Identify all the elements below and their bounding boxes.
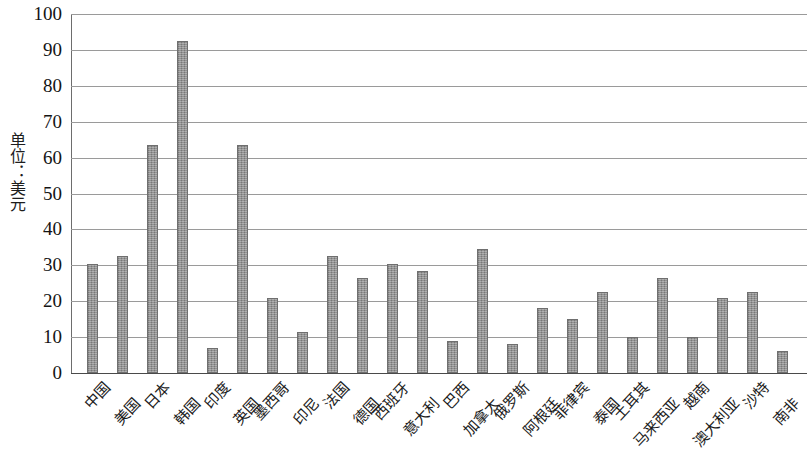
- x-axis-category-label: 中国: [81, 379, 113, 412]
- bar: [177, 41, 188, 373]
- x-axis-category-label: 越南: [681, 379, 713, 412]
- y-axis-tick-label: 40: [18, 219, 62, 238]
- y-axis-tick-label: 80: [18, 76, 62, 95]
- y-axis-tick-label: 60: [18, 148, 62, 167]
- x-axis-category-label: 韩国: [171, 395, 203, 428]
- x-axis-category-label: 南非: [771, 395, 803, 428]
- x-axis-category-label: 巴西: [441, 379, 473, 412]
- bar: [357, 278, 368, 373]
- bar: [117, 256, 128, 373]
- y-axis-tick-label: 30: [18, 255, 62, 274]
- x-axis-category-label: 法国: [321, 379, 353, 412]
- bar: [237, 145, 248, 373]
- y-axis-tick-label: 70: [18, 112, 62, 131]
- y-axis-tick-label: 20: [18, 291, 62, 310]
- plot-area: [71, 14, 807, 373]
- bar: [567, 319, 578, 373]
- bar: [657, 278, 668, 373]
- y-axis-tick-label: 90: [18, 40, 62, 59]
- x-axis-category-label: 沙特: [741, 379, 773, 412]
- bar: [207, 348, 218, 373]
- x-axis-category-label: 意大利: [401, 395, 443, 439]
- bar: [327, 256, 338, 373]
- bar: [147, 145, 158, 373]
- gridline: [71, 14, 807, 15]
- x-axis-category-label: 印尼: [291, 395, 323, 428]
- bar: [717, 298, 728, 373]
- x-axis-category-labels: 中国美国日本韩国印度英国墨西哥印尼法国德国西班牙意大利巴西加拿大俄罗斯阿根廷菲律…: [0, 373, 811, 455]
- bar: [447, 341, 458, 373]
- bar-chart: 单位：美元 1009080706050403020100 中国美国日本韩国印度英…: [0, 0, 811, 455]
- bar: [417, 271, 428, 373]
- bar: [777, 351, 788, 373]
- y-axis-tick-label: 100: [18, 4, 62, 23]
- x-axis-category-label: 日本: [141, 379, 173, 412]
- bar: [747, 292, 758, 373]
- bar: [507, 344, 518, 373]
- y-axis-tick-label: 10: [18, 327, 62, 346]
- bar: [87, 264, 98, 373]
- bar: [267, 298, 278, 373]
- bar: [687, 337, 698, 373]
- bar: [537, 308, 548, 373]
- x-axis-category-label: 美国: [111, 395, 143, 428]
- bar: [597, 292, 608, 373]
- x-axis-category-label: 印度: [201, 379, 233, 412]
- bar: [627, 337, 638, 373]
- bar: [387, 264, 398, 373]
- y-axis-tick-label: 50: [18, 184, 62, 203]
- bar: [477, 249, 488, 373]
- bar: [297, 332, 308, 373]
